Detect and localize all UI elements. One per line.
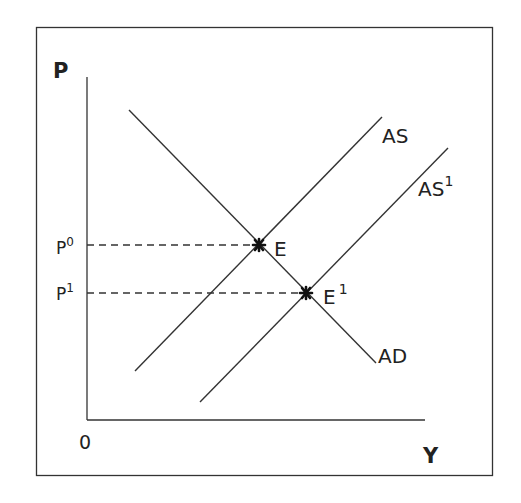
p0-label: P0 (56, 235, 74, 258)
equilibrium-e-marker (253, 239, 265, 251)
as1-label: AS1 (418, 173, 453, 201)
x-axis-label: Y (422, 444, 439, 468)
diagram-frame (37, 28, 493, 476)
e1-label: E1 (323, 281, 348, 309)
y-axis-label: P (53, 59, 68, 83)
origin-label: 0 (79, 431, 91, 453)
ad-curve (129, 110, 376, 363)
ad-label: AD (378, 344, 407, 368)
e-label: E (274, 237, 287, 261)
as1-curve (200, 148, 448, 402)
as-label: AS (382, 124, 408, 148)
equilibrium-e1-marker (300, 287, 312, 299)
p1-label: P1 (56, 281, 74, 304)
as-ad-diagram: P Y 0 P0 P1 AS AS1 AD E E1 (0, 0, 521, 503)
